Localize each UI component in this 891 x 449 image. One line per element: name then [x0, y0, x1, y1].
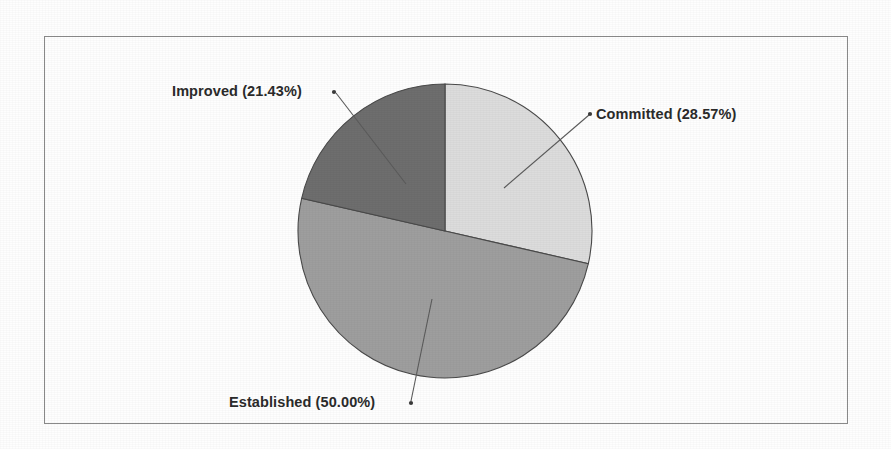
leader-dot-established — [409, 401, 413, 405]
chart-page: Improved (21.43%) Committed (28.57%) Est… — [0, 0, 891, 449]
pie-slices — [298, 84, 592, 378]
pie-label-committed: Committed (28.57%) — [596, 106, 736, 122]
pie-label-improved: Improved (21.43%) — [172, 83, 302, 99]
pie-label-established: Established (50.00%) — [229, 394, 375, 410]
pie-chart — [0, 0, 891, 449]
leader-dot-committed — [588, 112, 592, 116]
leader-dot-improved — [332, 90, 336, 94]
